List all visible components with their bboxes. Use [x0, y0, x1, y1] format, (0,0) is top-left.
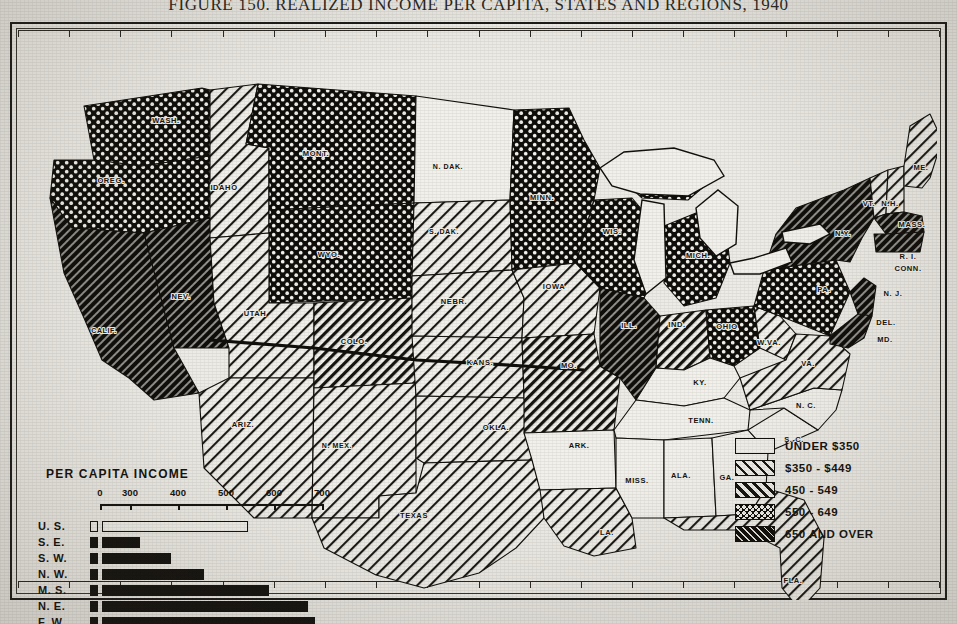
- legend-swatch-650-over: [735, 526, 775, 542]
- state-label-calif: CALIF.: [91, 327, 116, 334]
- graticule-tick: [18, 582, 19, 588]
- bar-fw: [102, 617, 315, 624]
- bar-category-label: N. W.: [38, 568, 82, 580]
- legend-label-550-649: 550 - 649: [785, 506, 838, 518]
- state-label-okla: OKLA.: [483, 423, 509, 432]
- axis-tick-label: 0: [97, 487, 102, 498]
- axis-tick: [322, 504, 324, 510]
- state-north-dakota: [414, 96, 514, 203]
- state-label-pa: PA.: [817, 285, 831, 294]
- bar-category-label: N. E.: [38, 600, 82, 612]
- state-connecticut-rhode-island: [874, 232, 924, 252]
- state-montana: [246, 84, 416, 210]
- bar-nw: [102, 569, 204, 580]
- bar-axis-stub: [90, 585, 98, 596]
- map-plate: .st{stroke:#12100c;stroke-width:1.1;stro…: [10, 22, 947, 600]
- figure-page: FIGURE 150. REALIZED INCOME PER CAPITA, …: [0, 0, 957, 624]
- axis-tick: [178, 504, 180, 510]
- map-legend: UNDER $350 $350 - $449 450 - 549 550 - 6…: [735, 436, 935, 546]
- graticule-tick: [274, 31, 275, 37]
- state-label-ny: N.Y.: [835, 229, 851, 238]
- axis-tick-label: 300: [122, 487, 138, 498]
- legend-row: $350 - $449: [735, 458, 935, 478]
- per-capita-income-inset-chart: PER CAPITA INCOME 0300400500600700 U. S.…: [38, 467, 338, 624]
- graticule-ruler-top: [18, 30, 939, 40]
- state-label-mo: MO.: [561, 361, 577, 370]
- axis-tick: [100, 504, 102, 510]
- bar-axis-stub: [90, 601, 98, 612]
- state-label-ill: ILL.: [621, 321, 637, 330]
- bar-row: S. E.: [38, 537, 338, 548]
- inset-chart-axis: [100, 504, 322, 506]
- state-label-wva: W.VA.: [757, 338, 781, 347]
- graticule-tick: [837, 31, 838, 37]
- state-label-oreg: OREG.: [97, 176, 124, 185]
- state-label-vt: VT.: [863, 199, 876, 208]
- bar-axis-stub: [90, 537, 98, 548]
- state-label-texas: TEXAS: [400, 511, 428, 520]
- graticule-tick: [581, 31, 582, 37]
- state-washington: [84, 88, 210, 166]
- legend-label-450-549: 450 - 549: [785, 484, 838, 496]
- state-label-tenn: TENN.: [688, 416, 714, 425]
- state-label-idaho: IDAHO: [210, 183, 237, 192]
- legend-label-650-over: 650 AND OVER: [785, 528, 874, 540]
- state-label-sdak: S. DAK.: [429, 228, 459, 235]
- state-kansas: [412, 336, 524, 398]
- graticule-tick: [888, 31, 889, 37]
- state-label-ri: R. I.: [900, 252, 917, 261]
- bar-ms: [102, 585, 269, 596]
- graticule-tick: [683, 31, 684, 37]
- state-label-nc: N. C.: [796, 401, 816, 410]
- state-label-nj: N. J.: [884, 289, 903, 298]
- bar-row: U. S.: [38, 521, 338, 532]
- state-oklahoma: [416, 396, 532, 463]
- bar-se: [102, 537, 140, 548]
- state-indiana: [656, 310, 710, 370]
- graticule-tick: [734, 31, 735, 37]
- bar-row: M. S.: [38, 585, 338, 596]
- graticule-tick: [786, 31, 787, 37]
- axis-tick-label: 400: [170, 487, 186, 498]
- axis-tick-label: 600: [266, 487, 282, 498]
- legend-swatch-450-549: [735, 482, 775, 498]
- bar-row: N. W.: [38, 569, 338, 580]
- graticule-tick: [939, 31, 940, 37]
- bar-axis-stub: [90, 569, 98, 580]
- state-label-ga: GA.: [719, 473, 734, 482]
- state-label-ndak: N. DAK.: [433, 163, 463, 170]
- axis-tick: [226, 504, 228, 510]
- graticule-tick: [427, 31, 428, 37]
- axis-tick: [274, 504, 276, 510]
- state-label-wis: WIS.: [603, 227, 622, 236]
- graticule-tick: [376, 31, 377, 37]
- graticule-tick: [120, 31, 121, 37]
- bar-axis-stub: [90, 553, 98, 564]
- legend-label-350-449: $350 - $449: [785, 462, 852, 474]
- legend-row: 550 - 649: [735, 502, 935, 522]
- state-label-conn: CONN.: [894, 264, 921, 273]
- state-label-colo: COLO.: [341, 337, 368, 346]
- state-label-ind: IND.: [668, 320, 685, 329]
- bar-ne: [102, 601, 308, 612]
- graticule-tick: [69, 31, 70, 37]
- graticule-tick: [223, 31, 224, 37]
- state-label-wash: WASH.: [152, 116, 180, 125]
- legend-row: UNDER $350: [735, 436, 935, 456]
- state-label-mont: MONT.: [303, 149, 329, 158]
- graticule-tick: [632, 31, 633, 37]
- state-label-minn: MINN.: [530, 193, 554, 202]
- bar-sw: [102, 553, 171, 564]
- bar-axis-stub: [90, 617, 98, 624]
- state-label-nmex: N. MEX.: [322, 442, 352, 449]
- legend-row: 450 - 549: [735, 480, 935, 500]
- legend-swatch-550-649: [735, 504, 775, 520]
- bar-row: S. W.: [38, 553, 338, 564]
- state-label-mass: MASS.: [899, 220, 926, 229]
- legend-label-under-350: UNDER $350: [785, 440, 860, 452]
- lake-superior: [600, 148, 724, 196]
- state-label-del: DEL.: [876, 318, 895, 327]
- graticule-tick: [171, 31, 172, 37]
- graticule-tick: [939, 582, 940, 588]
- state-south-dakota: [412, 200, 512, 276]
